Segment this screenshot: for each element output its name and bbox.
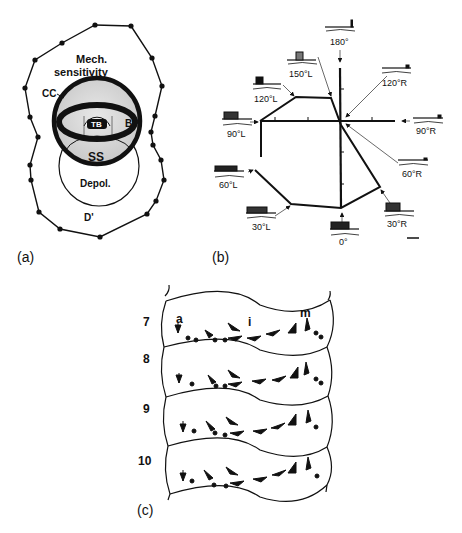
mech-label-2: sensitivity [54,66,109,78]
angle-label-90R: 90°R [416,126,437,136]
d-prime-label: D' [84,212,94,223]
segment-10-arrows [180,457,319,488]
segment-8-arrows [176,362,323,388]
mech-label-1: Mech. [76,53,107,65]
angle-label-30L: 30°L [252,222,271,232]
angle-label-120R: 120°R [382,78,408,88]
angle-label-30R: 30°R [387,219,408,229]
angle-label-0: 0° [339,237,348,247]
angle-label-90L: 90°L [227,129,246,139]
segment-9-arrows [180,410,318,437]
ss-label: SS [88,150,104,164]
figure-canvas: Mech. sensitivity CC TB BP SS Depol. D' … [0,0,462,533]
angle-label-180: 180° [330,37,349,47]
angle-label-150L: 150°L [289,69,313,79]
panel-a: Mech. sensitivity CC TB BP SS Depol. D' … [17,22,167,265]
tb-label: TB [91,120,102,129]
segment-label-7: 7 [143,315,150,329]
panel-a-label: (a) [17,249,34,265]
angle-label-120L: 120°L [254,94,278,104]
panel-c-label: (c) [137,502,153,518]
cc-label: CC [42,88,56,99]
segment-label-9: 9 [143,402,150,416]
spike-traces [214,20,443,238]
panel-b: 180° 150°L 120°L 120°R 90°L 90°R 60°L 60… [212,20,443,265]
angle-label-60R: 60°R [402,169,423,179]
region-label-i: i [248,315,251,329]
segment-label-8: 8 [143,352,150,366]
region-label-m: m [300,306,311,320]
angle-label-60L: 60°L [219,180,238,190]
depol-label: Depol. [80,178,111,189]
panel-b-label: (b) [212,249,229,265]
response-polygon [255,97,380,208]
panel-c-arrows [175,318,323,488]
segment-label-10: 10 [138,454,152,468]
region-label-a: a [176,312,183,326]
bp-label: BP [125,118,139,129]
